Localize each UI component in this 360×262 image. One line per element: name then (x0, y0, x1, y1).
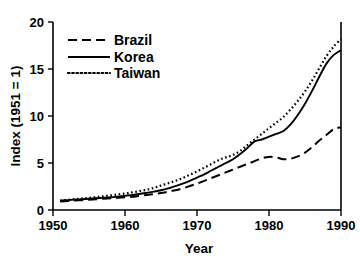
y-tick-label: 15 (30, 62, 44, 77)
x-axis-title: Year (185, 241, 214, 256)
x-tick-label: 1970 (183, 218, 212, 233)
y-axis-title: Index (1951 = 1) (8, 66, 23, 167)
series-line-brazil (60, 127, 341, 201)
y-tick-label: 20 (30, 15, 44, 30)
x-tick-label: 1990 (327, 218, 356, 233)
legend-label-brazil: Brazil (114, 32, 152, 48)
x-tick-marks (53, 210, 341, 216)
x-tick-label: 1980 (255, 218, 284, 233)
y-tick-labels: 20 15 10 5 0 (30, 15, 44, 218)
x-tick-label: 1960 (111, 218, 140, 233)
x-tick-labels: 1950 1960 1970 1980 1990 (39, 218, 356, 233)
x-tick-label: 1950 (39, 218, 68, 233)
legend: Brazil Korea Taiwan (68, 32, 160, 81)
legend-label-taiwan: Taiwan (114, 65, 160, 81)
legend-label-korea: Korea (114, 49, 154, 65)
line-chart: 20 15 10 5 0 1950 1960 1970 1980 1990 Ye… (0, 0, 360, 262)
data-series-group (60, 39, 341, 202)
y-tick-label: 10 (30, 109, 44, 124)
y-tick-label: 0 (37, 203, 44, 218)
chart-figure: 20 15 10 5 0 1950 1960 1970 1980 1990 Ye… (0, 0, 360, 262)
y-tick-label: 5 (37, 156, 44, 171)
